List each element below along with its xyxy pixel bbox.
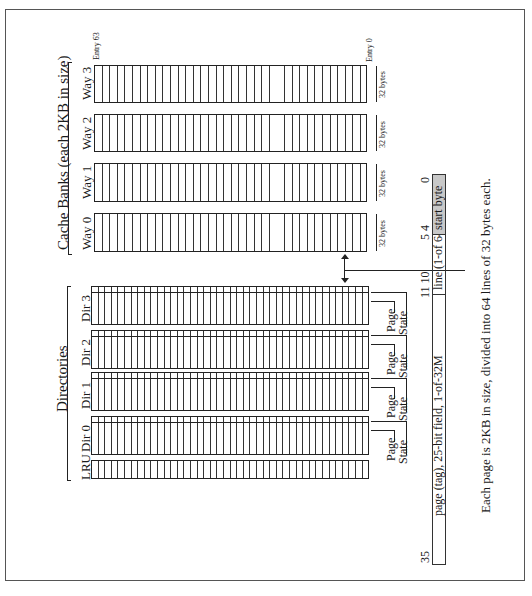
dir-1-state-label: State	[396, 397, 411, 421]
way-2-size-label: 32 bytes	[378, 121, 387, 148]
directories-title: Directories	[54, 345, 71, 412]
way-1-size-label: 32 bytes	[378, 170, 387, 197]
dir-2-state-label: State	[396, 354, 411, 378]
way-0-size-label: 32 bytes	[378, 220, 387, 247]
dir-3-state-label: State	[396, 311, 411, 335]
way-3-label: Way 3	[79, 67, 95, 100]
dir-3	[91, 286, 369, 325]
cache-banks-title: Cache Banks (each 2KB in size)	[55, 55, 72, 250]
dir-0-state-label: State	[396, 440, 411, 464]
way-3-bank	[94, 65, 367, 103]
way-1-bank	[94, 163, 367, 202]
way-0-size-arrow	[376, 214, 377, 251]
entry-0-label: Entry 0	[365, 38, 374, 62]
address-page-field-label: page (tag), 25-bit field, 1-of-32M	[431, 355, 446, 516]
way-3-size-arrow	[376, 66, 377, 102]
way-3-size-label: 32 bytes	[378, 71, 387, 98]
dir-0	[91, 416, 369, 455]
way-2-bank	[94, 114, 367, 152]
dir-2	[91, 330, 369, 369]
address-line-field-label: line (1-of 64)	[431, 226, 446, 290]
dir-1	[91, 372, 369, 411]
address-start-byte-field-label: start byte	[431, 186, 446, 230]
caption: Each page is 2KB in size, divided into 6…	[478, 178, 494, 513]
bit-label-0: 0	[418, 177, 433, 183]
lru-array	[91, 460, 369, 479]
way-0-label: Way 0	[79, 217, 95, 250]
way-0-bank	[94, 213, 367, 252]
way-2-label: Way 2	[79, 117, 95, 150]
way-1-label: Way 1	[79, 166, 95, 199]
way-2-size-arrow	[376, 115, 377, 151]
entry-63-label: Entry 63	[92, 32, 101, 60]
way-1-size-arrow	[376, 164, 377, 201]
bit-label-35: 35	[418, 551, 433, 563]
